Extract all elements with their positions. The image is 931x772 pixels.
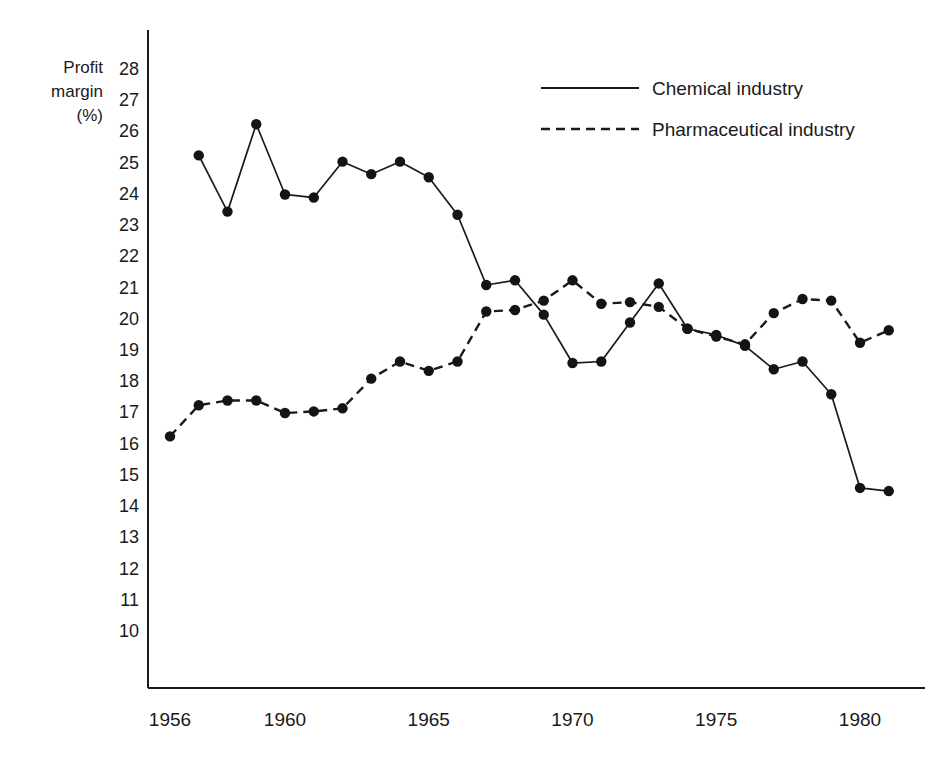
data-point-marker xyxy=(539,309,549,319)
data-point-marker xyxy=(481,280,491,290)
data-point-marker xyxy=(769,364,779,374)
data-point-marker xyxy=(309,192,319,202)
y-tick-label: 22 xyxy=(119,246,139,266)
data-point-marker xyxy=(596,356,606,366)
data-point-marker xyxy=(251,119,261,129)
y-tick-label: 17 xyxy=(119,402,139,422)
profit-margin-line-chart: Profitmargin(%) 282726252423222120191817… xyxy=(0,0,931,772)
data-point-marker xyxy=(452,210,462,220)
legend-label: Pharmaceutical industry xyxy=(652,119,855,140)
data-point-marker xyxy=(769,308,779,318)
legend-item[interactable]: Chemical industry xyxy=(541,78,803,99)
data-point-marker xyxy=(222,206,232,216)
data-point-marker xyxy=(424,172,434,182)
data-point-marker xyxy=(682,324,692,334)
data-point-marker xyxy=(826,295,836,305)
data-point-marker xyxy=(884,486,894,496)
data-point-marker xyxy=(596,299,606,309)
data-series-layer xyxy=(165,119,894,496)
data-point-marker xyxy=(510,305,520,315)
data-point-marker xyxy=(654,302,664,312)
legend-label: Chemical industry xyxy=(652,78,803,99)
data-point-marker xyxy=(481,306,491,316)
y-tick-label: 20 xyxy=(119,309,139,329)
data-point-marker xyxy=(280,408,290,418)
data-point-marker xyxy=(826,389,836,399)
series-path xyxy=(170,280,889,436)
data-point-marker xyxy=(711,331,721,341)
data-point-marker xyxy=(424,366,434,376)
data-point-marker xyxy=(337,403,347,413)
y-axis-title-line: (%) xyxy=(77,106,103,125)
y-tick-label: 19 xyxy=(119,340,139,360)
x-tick-label: 1970 xyxy=(551,709,593,730)
legend-item[interactable]: Pharmaceutical industry xyxy=(541,119,855,140)
data-point-marker xyxy=(654,278,664,288)
y-tick-label: 18 xyxy=(119,371,139,391)
data-point-marker xyxy=(366,169,376,179)
data-point-marker xyxy=(567,275,577,285)
data-point-marker xyxy=(251,395,261,405)
data-point-marker xyxy=(366,373,376,383)
x-axis-tick-labels: 195619601965197019751980 xyxy=(149,709,881,730)
y-tick-label: 12 xyxy=(119,559,139,579)
data-point-marker xyxy=(337,156,347,166)
data-point-marker xyxy=(165,431,175,441)
x-tick-label: 1975 xyxy=(695,709,737,730)
data-point-marker xyxy=(625,317,635,327)
data-point-marker xyxy=(194,400,204,410)
data-point-marker xyxy=(855,338,865,348)
x-tick-label: 1956 xyxy=(149,709,191,730)
series-pharmaceutical-industry xyxy=(165,275,894,442)
y-tick-label: 24 xyxy=(119,184,139,204)
y-tick-label: 13 xyxy=(119,527,139,547)
series-chemical-industry xyxy=(194,119,894,496)
y-tick-label: 15 xyxy=(119,465,139,485)
data-point-marker xyxy=(280,189,290,199)
chart-legend: Chemical industryPharmaceutical industry xyxy=(541,78,855,140)
data-point-marker xyxy=(740,339,750,349)
y-tick-label: 14 xyxy=(119,496,139,516)
y-axis-title-line: margin xyxy=(51,82,103,101)
data-point-marker xyxy=(452,356,462,366)
y-tick-label: 25 xyxy=(119,153,139,173)
data-point-marker xyxy=(797,356,807,366)
chart-page: Profitmargin(%) 282726252423222120191817… xyxy=(0,0,931,772)
data-point-marker xyxy=(625,297,635,307)
y-tick-label: 10 xyxy=(119,621,139,641)
y-axis-title: Profitmargin(%) xyxy=(51,58,103,125)
data-point-marker xyxy=(539,295,549,305)
y-tick-label: 28 xyxy=(119,59,139,79)
data-point-marker xyxy=(797,294,807,304)
y-tick-label: 27 xyxy=(119,90,139,110)
y-tick-label: 16 xyxy=(119,434,139,454)
data-point-marker xyxy=(855,483,865,493)
y-axis-tick-labels: 28272625242322212019181716151413121110 xyxy=(119,59,139,641)
data-point-marker xyxy=(222,395,232,405)
y-tick-label: 11 xyxy=(120,590,139,610)
y-tick-label: 26 xyxy=(119,121,139,141)
data-point-marker xyxy=(194,150,204,160)
data-point-marker xyxy=(395,356,405,366)
data-point-marker xyxy=(510,275,520,285)
data-point-marker xyxy=(395,156,405,166)
data-point-marker xyxy=(309,406,319,416)
x-tick-label: 1965 xyxy=(408,709,450,730)
x-tick-label: 1980 xyxy=(839,709,881,730)
x-tick-label: 1960 xyxy=(264,709,306,730)
y-axis-title-line: Profit xyxy=(63,58,103,77)
data-point-marker xyxy=(884,325,894,335)
y-tick-label: 21 xyxy=(119,278,139,298)
y-tick-label: 23 xyxy=(119,215,139,235)
data-point-marker xyxy=(567,358,577,368)
